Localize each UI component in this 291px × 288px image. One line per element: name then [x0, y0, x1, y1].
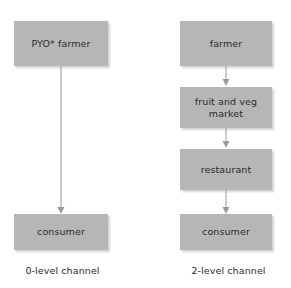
arrow-market-to-restaurant: [0, 128, 291, 150]
node-farmer: farmer: [180, 21, 272, 66]
node-consumer-right: consumer: [180, 214, 272, 250]
node-fruit-and-veg-market-label: fruit and veg market: [195, 96, 257, 120]
caption-2-level-channel: 2-level channel: [166, 265, 291, 276]
channel-diagram: PYO* farmer consumer 0-level channel far…: [0, 0, 291, 288]
node-consumer-left: consumer: [14, 214, 108, 250]
node-pyo-farmer: PYO* farmer: [14, 21, 108, 66]
node-consumer-left-label: consumer: [37, 226, 85, 238]
arrow-farmer-to-market: [0, 66, 291, 88]
caption-0-level-channel: 0-level channel: [0, 265, 125, 276]
node-fruit-and-veg-market: fruit and veg market: [180, 87, 272, 128]
node-farmer-label: farmer: [210, 38, 243, 50]
node-pyo-farmer-label: PYO* farmer: [31, 38, 90, 50]
arrow-restaurant-to-consumer: [0, 190, 291, 216]
node-restaurant: restaurant: [180, 149, 272, 190]
node-consumer-right-label: consumer: [202, 226, 250, 238]
node-restaurant-label: restaurant: [201, 164, 252, 176]
